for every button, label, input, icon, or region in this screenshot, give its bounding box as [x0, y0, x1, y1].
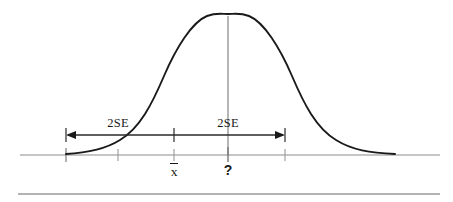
bell-curve [66, 14, 395, 154]
x-bar-label: x [170, 163, 178, 179]
se-label-left: 2SE [107, 117, 128, 130]
x-bar-glyph: x [170, 165, 178, 179]
figure-canvas: 2SE 2SE x ? [0, 0, 453, 202]
confidence-interval-bar [66, 128, 285, 142]
left-arrowhead-icon [66, 131, 76, 139]
unknown-parameter-label: ? [224, 163, 233, 177]
right-arrowhead-icon [275, 131, 285, 139]
se-label-right: 2SE [217, 117, 238, 130]
